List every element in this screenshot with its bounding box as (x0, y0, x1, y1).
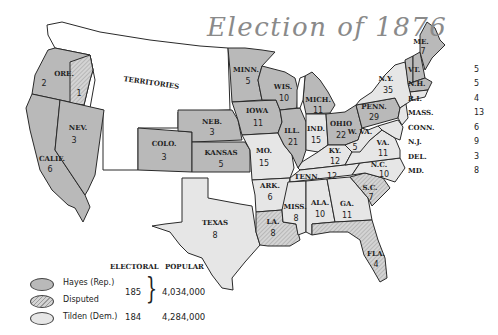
small-states-list: VT.5 N.H.5 R.I.4 MASS.13 CONN.6 N.J.9 DE… (408, 62, 498, 178)
small-state-row: R.I.4 (408, 91, 498, 106)
svg-text:COLO.: COLO. (152, 139, 177, 148)
svg-text:5: 5 (218, 160, 223, 169)
hayes-electoral-votes: 185 (125, 287, 141, 297)
svg-text:12: 12 (327, 172, 337, 181)
svg-text:TENN.: TENN. (294, 172, 319, 181)
svg-text:8: 8 (270, 229, 275, 238)
svg-text:ORE.: ORE. (54, 69, 74, 78)
svg-text:6: 6 (47, 165, 52, 174)
tilden-popular-votes: 4,284,000 (162, 312, 205, 322)
svg-text:10: 10 (379, 170, 389, 179)
legend-tilden-label: Tilden (Dem.) (63, 312, 117, 321)
svg-text:ALA.: ALA. (310, 198, 329, 207)
svg-text:PENN.: PENN. (361, 102, 386, 111)
svg-text:KANSAS: KANSAS (204, 148, 237, 157)
legend: ELECTORAL POPULAR Hayes (Rep.) Disputed … (28, 258, 248, 328)
svg-text:GA.: GA. (340, 199, 354, 208)
svg-text:11: 11 (313, 106, 323, 115)
small-state-row: DEL.3 (408, 149, 498, 164)
state-indiana (306, 114, 328, 152)
small-state-row: CONN.6 (408, 120, 498, 135)
svg-text:NEB.: NEB. (202, 117, 222, 126)
map-title: Election of 1876 (207, 12, 447, 42)
svg-text:29: 29 (369, 113, 379, 122)
tilden-swatch (30, 312, 54, 325)
svg-text:TEXAS: TEXAS (202, 218, 228, 227)
svg-text:10: 10 (315, 210, 325, 219)
svg-text:KY.: KY. (329, 146, 341, 155)
svg-text:3: 3 (209, 128, 214, 137)
small-state-row: VT.5 (408, 62, 498, 77)
svg-text:IOWA: IOWA (246, 106, 269, 115)
svg-text:1: 1 (76, 89, 81, 98)
small-state-row: N.H.5 (408, 77, 498, 92)
svg-text:NEV.: NEV. (69, 123, 87, 132)
svg-text:3: 3 (161, 153, 166, 162)
svg-text:MICH.: MICH. (305, 95, 331, 104)
svg-text:WIS.: WIS. (273, 82, 292, 91)
svg-text:CALIF.: CALIF. (39, 154, 65, 163)
svg-text:8: 8 (293, 214, 298, 223)
svg-text:15: 15 (311, 136, 321, 145)
svg-text:W. VA.: W. VA. (347, 127, 372, 136)
svg-text:11: 11 (342, 211, 352, 220)
svg-text:5: 5 (352, 143, 357, 152)
hayes-popular-votes: 4,034,000 (162, 287, 205, 297)
disputed-swatch (30, 295, 54, 308)
hayes-swatch (30, 278, 54, 291)
svg-text:MISS.: MISS. (283, 202, 306, 211)
svg-text:N.C.: N.C. (371, 160, 387, 169)
legend-popular-header: POPULAR (165, 262, 204, 271)
tilden-electoral-votes: 184 (125, 312, 141, 322)
svg-text:5: 5 (245, 77, 250, 86)
svg-text:N.Y.: N.Y. (379, 74, 394, 83)
svg-text:VA.: VA. (376, 138, 390, 147)
svg-text:MINN.: MINN. (233, 65, 259, 74)
svg-text:IND.: IND. (307, 124, 325, 133)
svg-text:11: 11 (378, 149, 388, 158)
svg-text:15: 15 (259, 159, 269, 168)
legend-disputed-label: Disputed (63, 295, 99, 304)
legend-hayes-label: Hayes (Rep.) (63, 278, 114, 287)
svg-text:LA.: LA. (267, 217, 280, 226)
svg-text:2: 2 (41, 79, 46, 88)
legend-brace: } (146, 273, 157, 303)
svg-text:6: 6 (267, 193, 272, 202)
small-state-row: N.J.9 (408, 135, 498, 150)
state-colorado (138, 128, 192, 172)
small-state-row: MASS.13 (408, 106, 498, 121)
svg-text:22: 22 (336, 131, 346, 140)
svg-text:12: 12 (330, 157, 340, 166)
svg-text:3: 3 (71, 136, 76, 145)
svg-text:11: 11 (253, 119, 263, 128)
svg-text:FLA.: FLA. (367, 249, 385, 258)
svg-text:MO.: MO. (256, 146, 272, 155)
svg-text:ILL.: ILL. (284, 126, 300, 135)
svg-text:8: 8 (212, 231, 217, 240)
svg-text:21: 21 (288, 138, 298, 147)
small-state-row: MD.8 (408, 164, 498, 179)
svg-text:10: 10 (279, 94, 289, 103)
svg-text:S.C.: S.C. (362, 183, 377, 192)
svg-text:ARK.: ARK. (259, 181, 280, 190)
svg-text:35: 35 (383, 86, 393, 95)
svg-text:7: 7 (420, 47, 425, 56)
svg-text:4: 4 (373, 260, 378, 269)
svg-text:7: 7 (368, 193, 373, 202)
